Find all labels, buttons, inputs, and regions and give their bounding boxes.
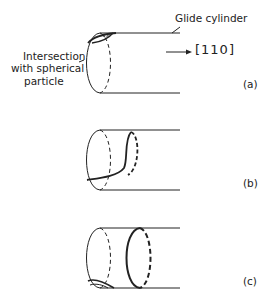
cylinder-b [87,130,181,190]
cylinder-a [79,27,192,93]
intersection-label-line1: Intersection [23,50,85,62]
panel-label-b: (b) [243,177,258,189]
direction-arrow-head [186,50,192,55]
direction-label: [110] [195,44,235,56]
glide-cylinder-leader [172,27,180,33]
cylinder-c [87,228,181,288]
intersection-label-line2: with spherical [11,62,84,74]
dislocation-loop-c [127,228,141,288]
intersection-label-line3: particle [24,75,64,87]
glide-cylinder-label: Glide cylinder [175,12,247,24]
panel-label-c: (c) [243,275,257,287]
panel-label-a: (a) [243,78,258,90]
